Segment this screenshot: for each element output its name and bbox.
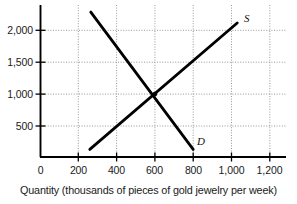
xtick-label-800: 800 [177,164,210,176]
x-axis-title: Quantity (thousands of pieces of gold je… [0,184,297,196]
xtick-label-1200: 1,200 [251,164,288,176]
supply-curve-label: S [244,12,250,24]
ytick-label-2000: 2,000 [0,24,33,36]
supply-demand-chart-figure: 2,000 1,500 1,000 500 0 200 400 600 800 … [0,0,297,204]
horizontal-gridlines [40,30,286,126]
ytick-label-500: 500 [0,120,33,132]
xtick-label-1000: 1,000 [213,164,250,176]
demand-curve [91,12,193,149]
demand-curve-label: D [197,135,205,147]
xtick-label-600: 600 [138,164,171,176]
equilibrium-point-marker [153,92,158,97]
xtick-label-400: 400 [100,164,133,176]
xtick-label-200: 200 [62,164,95,176]
xtick-label-0: 0 [29,164,52,176]
ytick-label-1000: 1,000 [0,88,33,100]
ytick-label-1500: 1,500 [0,56,33,68]
